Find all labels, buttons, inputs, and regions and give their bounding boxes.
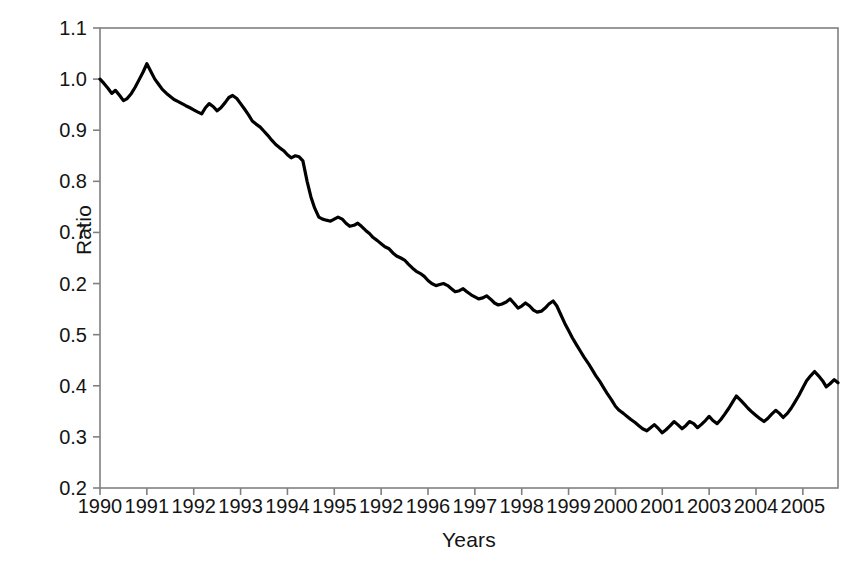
y-axis-title: Ratio [72,160,96,300]
plot-frame [100,28,838,488]
x-axis-title: Years [100,528,838,552]
chart-plot-area [0,0,866,576]
chart-figure: 1.11.00.90.80.70.20.50.40.30.2 199019911… [0,0,866,576]
data-series-line [100,64,838,433]
